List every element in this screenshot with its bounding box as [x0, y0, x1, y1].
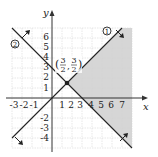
svg-text:3: 3: [60, 56, 65, 65]
svg-text:2: 2: [60, 65, 65, 74]
x-axis-label: x: [143, 101, 149, 112]
line-2-label: 2: [13, 41, 17, 49]
svg-text:3: 3: [71, 56, 76, 65]
svg-text:2: 2: [71, 65, 76, 74]
svg-text:3: 3: [43, 62, 49, 72]
svg-text:-3: -3: [40, 123, 49, 133]
x-tick-labels: -3 -2 -1 1 2 3 4 5 6 7: [10, 100, 126, 110]
svg-text:-1: -1: [30, 100, 39, 110]
y-tick-labels: 1 2 3 4 5 6 -2 -3 -4: [40, 32, 49, 143]
line-1-label: 1: [105, 28, 109, 36]
y-axis-label: y: [42, 7, 49, 18]
svg-text:(: (: [55, 58, 59, 71]
svg-text:1: 1: [43, 83, 49, 93]
svg-text:): ): [78, 58, 82, 71]
svg-text:-3: -3: [10, 100, 19, 110]
svg-text:,: ,: [67, 61, 70, 71]
svg-text:1: 1: [59, 100, 65, 110]
svg-text:5: 5: [98, 100, 104, 110]
svg-text:-2: -2: [40, 113, 49, 123]
svg-text:-4: -4: [40, 133, 49, 143]
solution-region: [67, 28, 132, 148]
svg-text:6: 6: [108, 100, 114, 110]
svg-text:6: 6: [43, 32, 49, 42]
intersection-point: [65, 81, 70, 86]
svg-text:2: 2: [43, 72, 49, 82]
svg-text:5: 5: [43, 42, 49, 52]
svg-text:2: 2: [68, 100, 74, 110]
svg-text:7: 7: [119, 100, 125, 110]
svg-text:-2: -2: [20, 100, 29, 110]
intersection-label: ( 3 2 , 3 2 ): [55, 56, 82, 74]
svg-text:3: 3: [77, 100, 83, 110]
y-axis: [50, 10, 55, 152]
inequality-graph: x y -3 -2 -1 1 2 3 4 5 6 7 1 2 3 4 5 6 -…: [0, 0, 158, 157]
